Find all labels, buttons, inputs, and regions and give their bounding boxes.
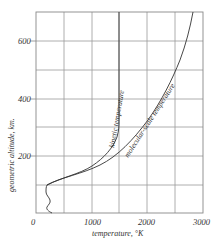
x-tick-label-3000: 3000 <box>192 217 211 227</box>
y-tick-label-600: 600 <box>18 36 32 46</box>
altitude-temperature-chart: kinetic temperature molecular-scale temp… <box>0 0 222 245</box>
x-axis-title: temperature, °K <box>92 229 144 238</box>
x-tick-label-2000: 2000 <box>138 217 156 227</box>
y-tick-label-400: 400 <box>18 94 32 104</box>
kinetic-temperature-curve <box>47 12 119 185</box>
x-tick-label-0: 0 <box>31 217 36 227</box>
y-tick-label-200: 200 <box>18 151 32 161</box>
molecular-scale-temperature-label: molecular-scale temperature <box>122 81 177 159</box>
kinetic-temperature-label: kinetic temperature <box>107 89 126 149</box>
y-axis-title: geometric altitude, km. <box>7 118 16 192</box>
x-tick-label-1000: 1000 <box>84 217 102 227</box>
lower-atmosphere-curve <box>46 185 52 213</box>
